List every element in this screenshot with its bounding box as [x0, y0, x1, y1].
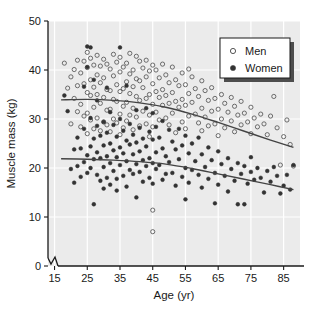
- data-point-filled: [85, 171, 89, 175]
- data-point-filled: [128, 122, 132, 126]
- data-point-filled: [233, 179, 237, 183]
- data-point-filled: [144, 164, 148, 168]
- data-point-filled: [220, 162, 224, 166]
- data-point-filled: [190, 142, 194, 146]
- data-point-filled: [112, 169, 116, 173]
- data-point-filled: [259, 176, 263, 180]
- data-point-filled: [148, 130, 152, 134]
- data-point-filled: [177, 157, 181, 161]
- data-point-filled: [197, 173, 201, 177]
- data-point-filled: [108, 110, 112, 114]
- data-point-filled: [98, 179, 102, 183]
- data-point-filled: [154, 167, 158, 171]
- data-point-filled: [134, 196, 138, 200]
- data-point-filled: [226, 190, 230, 194]
- y-tick-label: 20: [29, 162, 41, 174]
- data-point-filled: [138, 149, 142, 153]
- data-point-filled: [108, 161, 112, 165]
- data-point-filled: [206, 146, 210, 150]
- data-point-filled: [242, 164, 246, 168]
- data-point-filled: [105, 154, 109, 158]
- data-point-filled: [118, 163, 122, 167]
- data-point-filled: [292, 163, 296, 167]
- data-point-filled: [229, 167, 233, 171]
- data-point-filled: [177, 127, 181, 131]
- x-tick-label: 65: [212, 272, 224, 284]
- legend-label-men: Men: [245, 45, 266, 57]
- scatter-plot-figure: 152535455565758501020304050Age (yr)Muscl…: [0, 0, 314, 317]
- data-point-filled: [167, 160, 171, 164]
- data-point-filled: [95, 124, 99, 128]
- x-axis-title: Age (yr): [154, 289, 195, 301]
- data-point-filled: [92, 137, 96, 141]
- data-point-filled: [187, 181, 191, 185]
- data-point-filled: [115, 189, 119, 193]
- data-point-filled: [141, 180, 145, 184]
- data-point-filled: [121, 174, 125, 178]
- data-point-filled: [102, 120, 106, 124]
- data-point-filled: [151, 111, 155, 115]
- data-point-filled: [170, 140, 174, 144]
- x-tick-label: 55: [179, 272, 191, 284]
- data-point-filled: [72, 147, 76, 151]
- data-point-filled: [82, 85, 86, 89]
- data-point-filled: [174, 184, 178, 188]
- data-point-filled: [89, 46, 93, 50]
- legend: MenWomen: [220, 38, 294, 82]
- data-point-filled: [203, 165, 207, 169]
- y-tick-label: 50: [29, 15, 41, 27]
- chart-canvas: 152535455565758501020304050Age (yr)Muscl…: [0, 0, 314, 317]
- data-point-filled: [89, 166, 93, 170]
- data-point-filled: [131, 172, 135, 176]
- data-point-filled: [115, 155, 119, 159]
- x-tick-label: 15: [48, 272, 60, 284]
- data-point-filled: [164, 172, 168, 176]
- data-point-filled: [151, 138, 155, 142]
- legend-marker-filled-circle: [230, 65, 235, 70]
- data-point-filled: [184, 134, 188, 138]
- data-point-filled: [66, 109, 70, 113]
- x-tick-label: 85: [278, 272, 290, 284]
- data-point-filled: [148, 176, 152, 180]
- data-point-filled: [125, 139, 129, 143]
- data-point-filled: [164, 154, 168, 158]
- data-point-filled: [170, 171, 174, 175]
- data-point-filled: [118, 46, 122, 50]
- data-point-filled: [102, 144, 106, 148]
- data-point-filled: [85, 153, 89, 157]
- x-tick-label: 25: [81, 272, 93, 284]
- data-point-filled: [141, 137, 145, 141]
- data-point-filled: [285, 173, 289, 177]
- data-point-filled: [115, 135, 119, 139]
- y-tick-label: 40: [29, 64, 41, 76]
- data-point-filled: [89, 116, 93, 120]
- data-point-filled: [216, 149, 220, 153]
- data-point-filled: [76, 136, 80, 140]
- data-point-filled: [256, 166, 260, 170]
- data-point-filled: [210, 158, 214, 162]
- x-tick-label: 75: [245, 272, 257, 284]
- data-point-filled: [131, 133, 135, 137]
- y-tick-label: 30: [29, 113, 41, 125]
- data-point-filled: [138, 126, 142, 130]
- data-point-filled: [249, 170, 253, 174]
- data-point-filled: [242, 202, 246, 206]
- data-point-filled: [85, 65, 89, 69]
- data-point-filled: [105, 131, 109, 135]
- data-point-filled: [108, 183, 112, 187]
- data-point-filled: [275, 174, 279, 178]
- data-point-filled: [161, 119, 165, 123]
- data-point-filled: [197, 136, 201, 140]
- data-point-filled: [62, 94, 66, 98]
- data-point-filled: [118, 146, 122, 150]
- x-tick-label: 45: [147, 272, 159, 284]
- data-point-filled: [121, 129, 125, 133]
- data-point-filled: [174, 147, 178, 151]
- data-point-filled: [105, 86, 109, 90]
- data-point-filled: [79, 147, 83, 151]
- data-point-filled: [246, 182, 250, 186]
- data-point-filled: [105, 176, 109, 180]
- data-point-filled: [95, 173, 99, 177]
- data-point-filled: [128, 168, 132, 172]
- data-point-filled: [167, 128, 171, 132]
